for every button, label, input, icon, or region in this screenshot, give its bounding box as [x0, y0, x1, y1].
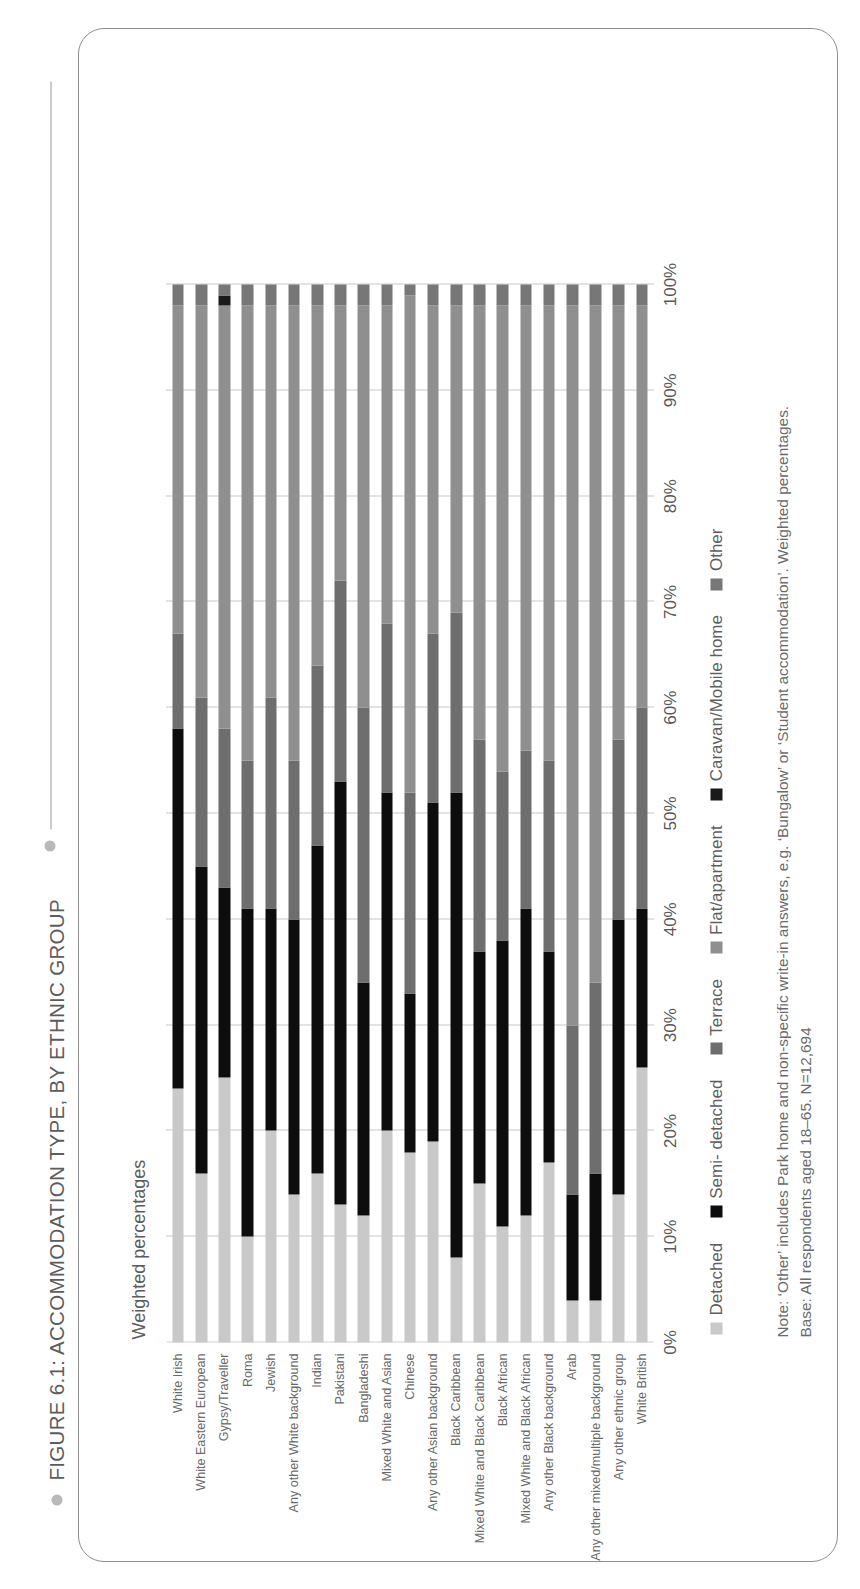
bar-segment: [473, 739, 485, 951]
bar-row: [311, 284, 323, 1342]
bar-segment: [612, 739, 624, 919]
bar-segment: [241, 1236, 253, 1342]
bar-row: [450, 284, 462, 1342]
bar-segment: [589, 1300, 601, 1342]
bar-segment: [195, 866, 207, 1173]
bar-segment: [311, 1173, 323, 1342]
category-label: White Irish: [171, 1353, 184, 1412]
legend-swatch-icon: [710, 941, 722, 953]
category-label: Pakistani: [333, 1353, 346, 1404]
category-axis-labels: White IrishWhite Eastern EuropeanGypsy/T…: [166, 1346, 653, 1589]
legend-item[interactable]: Semi- detached: [706, 1079, 726, 1217]
value-tick-20: 20%: [660, 1113, 680, 1147]
bar-row: [473, 284, 485, 1342]
bar-segment: [450, 1257, 462, 1342]
bar-segment: [520, 1215, 532, 1342]
legend-item[interactable]: Caravan/Mobile home: [706, 615, 726, 800]
bar-segment: [520, 305, 532, 749]
figure-notes: Note: ‘Other’ includes Park home and non…: [770, 405, 816, 1337]
bar-segment: [381, 1130, 393, 1342]
bar-segment: [172, 1088, 184, 1342]
figure-title-row: FIGURE 6.1: ACCOMMODATION TYPE, BY ETHNI…: [44, 899, 68, 1505]
bar-segment: [404, 295, 416, 792]
category-label: Bangladeshi: [357, 1353, 370, 1422]
bar-segment: [589, 284, 601, 305]
title-rule-divider: [50, 81, 51, 829]
legend-item[interactable]: Other: [706, 528, 726, 590]
bar-segment: [566, 1025, 578, 1194]
bar-segment: [311, 284, 323, 305]
bar-segment: [450, 792, 462, 1258]
bar-segment: [404, 1152, 416, 1342]
bar-segment: [636, 305, 648, 707]
bar-segment: [543, 305, 555, 760]
bar-segment: [427, 305, 439, 633]
value-tick-50: 50%: [660, 796, 680, 830]
bar-segment: [450, 284, 462, 305]
bar-segment: [450, 612, 462, 792]
legend-label: Other: [706, 528, 726, 571]
bar-segment: [381, 623, 393, 792]
bar-segment: [357, 1215, 369, 1342]
bar-segment: [473, 1183, 485, 1342]
bar-segment: [427, 633, 439, 802]
legend-swatch-icon: [710, 1322, 722, 1334]
bar-segment: [404, 792, 416, 993]
value-tick-40: 40%: [660, 902, 680, 936]
title-bullet-right-icon: [44, 840, 55, 851]
legend-swatch-icon: [710, 1042, 722, 1054]
chart-legend: DetachedSemi- detachedTerraceFlat/apartm…: [706, 528, 726, 1334]
bar-segment: [172, 305, 184, 633]
bar-segment: [334, 305, 346, 580]
bar-segment: [636, 908, 648, 1067]
page-title: FIGURE 6.1: ACCOMMODATION TYPE, BY ETHNI…: [44, 899, 68, 1480]
category-label: Any other ethnic group: [612, 1353, 625, 1480]
bar-segment: [566, 1300, 578, 1342]
legend-item[interactable]: Terrace: [706, 978, 726, 1054]
bar-segment: [172, 284, 184, 305]
bar-segment: [404, 993, 416, 1152]
legend-item[interactable]: Flat/apartment: [706, 825, 726, 954]
bar-segment: [381, 284, 393, 305]
bar-row: [612, 284, 624, 1342]
bar-segment: [172, 633, 184, 728]
bar-row: [543, 284, 555, 1342]
bar-segment: [241, 760, 253, 908]
bar-segment: [357, 982, 369, 1215]
category-label: Indian: [310, 1353, 323, 1387]
bar-segment: [311, 305, 323, 665]
bar-segment: [288, 1194, 300, 1342]
legend-item[interactable]: Detached: [706, 1242, 726, 1334]
category-label: White Eastern European: [194, 1353, 207, 1490]
bar-segment: [265, 284, 277, 305]
bar-row: [427, 284, 439, 1342]
rotated-content-wrapper: FIGURE 6.1: ACCOMMODATION TYPE, BY ETHNI…: [0, 0, 860, 1589]
bar-row: [218, 284, 230, 1342]
bar-row: [496, 284, 508, 1342]
bar-row: [404, 284, 416, 1342]
category-label: Chinese: [403, 1353, 416, 1399]
bar-segment: [636, 284, 648, 305]
bar-segment: [543, 284, 555, 305]
bar-row: [334, 284, 346, 1342]
category-label: Mixed White and Black African: [519, 1353, 532, 1523]
chart-plot-area: [166, 284, 653, 1342]
category-label: Black African: [496, 1353, 509, 1426]
category-label: Any other Black background: [542, 1353, 555, 1511]
bar-segment: [427, 802, 439, 1141]
bar-segment: [241, 284, 253, 305]
bar-segment: [288, 305, 300, 760]
bar-segment: [612, 919, 624, 1194]
value-tick-90: 90%: [660, 373, 680, 407]
legend-label: Semi- detached: [706, 1079, 726, 1198]
bar-segment: [589, 982, 601, 1172]
bar-segment: [195, 284, 207, 305]
bar-segment: [543, 760, 555, 950]
bar-segment: [357, 707, 369, 982]
bar-segment: [520, 284, 532, 305]
category-label: White British: [635, 1353, 648, 1424]
bar-segment: [265, 305, 277, 696]
bar-row: [265, 284, 277, 1342]
bar-segment: [543, 1162, 555, 1342]
bar-segment: [427, 1141, 439, 1342]
